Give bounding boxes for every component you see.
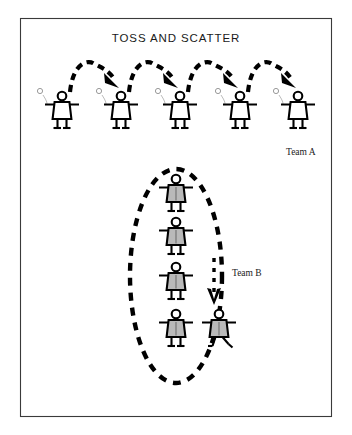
player-head bbox=[294, 92, 303, 101]
ball-icon bbox=[96, 88, 101, 93]
ball-icon bbox=[37, 88, 42, 93]
player-head bbox=[172, 218, 181, 227]
player-head bbox=[58, 92, 67, 101]
ball-icon bbox=[273, 88, 278, 93]
diagram-root: TOSS AND SCATTER Team A Team B bbox=[0, 0, 352, 435]
player-torso bbox=[171, 102, 190, 119]
player-torso bbox=[112, 102, 131, 119]
player-torso bbox=[289, 102, 308, 119]
player-torso bbox=[231, 102, 250, 119]
player-head bbox=[117, 92, 126, 101]
diagram-canvas: TOSS AND SCATTER Team A Team B bbox=[0, 0, 352, 435]
ball-icon bbox=[215, 88, 220, 93]
player-torso bbox=[53, 102, 72, 119]
diagram-title: TOSS AND SCATTER bbox=[112, 32, 240, 44]
player-head bbox=[215, 310, 224, 319]
player-head bbox=[172, 263, 181, 272]
player-head bbox=[172, 310, 181, 319]
player-head bbox=[236, 92, 245, 101]
team-a-label: Team A bbox=[286, 147, 316, 157]
team-b-label: Team B bbox=[232, 268, 262, 278]
player-head bbox=[176, 92, 185, 101]
player-head bbox=[172, 175, 181, 184]
ball-icon bbox=[155, 88, 160, 93]
